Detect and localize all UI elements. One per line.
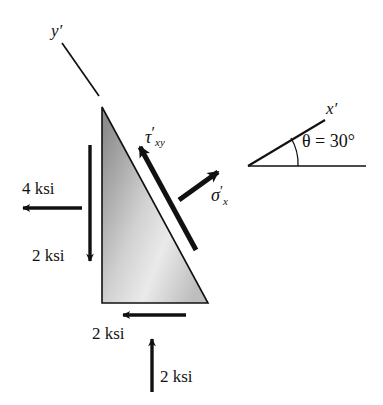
normal-stress-base: σ: [211, 185, 220, 205]
x-prime-axis-label: x′: [326, 100, 337, 117]
bottom-normal-load-label: 2 ksi: [160, 368, 193, 385]
figure-canvas: y′ x′ θ = 30° τ′xy σ′x 4 ksi 2 ksi 2 ksi…: [0, 0, 383, 405]
y-prime-axis-label: y′: [51, 22, 62, 39]
angle-arc: [291, 138, 298, 166]
normal-stress-label: σ′x: [211, 185, 228, 207]
shear-stress-subscript: xy: [155, 136, 165, 148]
stress-element-diagram: [0, 0, 383, 405]
left-shear-load-label: 2 ksi: [32, 247, 65, 264]
y-prime-axis-line: [62, 43, 99, 96]
left-normal-load-label: 4 ksi: [22, 180, 55, 197]
normal-stress-subscript: x: [223, 195, 228, 207]
bottom-shear-load-label: 2 ksi: [92, 325, 125, 342]
shear-stress-label: τ′xy: [145, 125, 165, 148]
angle-label: θ = 30°: [302, 132, 355, 150]
